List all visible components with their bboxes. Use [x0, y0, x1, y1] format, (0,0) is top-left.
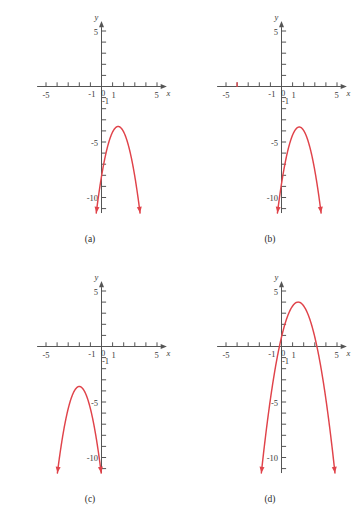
y-tick-label-neg10: -10: [267, 193, 278, 203]
y-tick-label-neg1: -1: [282, 96, 289, 106]
y-axis-label: y: [274, 12, 279, 22]
parabola-curve: [261, 302, 335, 473]
graph-panel-a: -5-10155-1-5-10xy(a): [0, 0, 180, 260]
y-axis-label: y: [94, 272, 99, 282]
axis-tick-labels: -5-10155-1-5-10: [222, 287, 338, 464]
x-axis-label: x: [345, 88, 350, 98]
x-tick-label-neg1: -1: [88, 89, 95, 99]
y-tick-label-5: 5: [274, 287, 278, 297]
x-tick-label-1: 1: [291, 350, 295, 360]
y-tick-label-5: 5: [94, 287, 98, 297]
y-tick-label-neg10: -10: [87, 193, 98, 203]
axes-group: [217, 281, 347, 473]
panel-caption: (c): [0, 494, 180, 504]
x-axis-label: x: [165, 88, 170, 98]
y-axis-arrow-icon: [279, 281, 284, 287]
axis-tick-labels: -5-10155-1-5-10: [42, 287, 158, 464]
parabola-curve: [277, 127, 321, 213]
figure-panel-grid: -5-10155-1-5-10xy(a)-5-10155-1-5-10xy(b)…: [0, 0, 360, 519]
x-tick-label-neg5: -5: [222, 350, 229, 360]
y-tick-label-neg1: -1: [102, 356, 109, 366]
panel-caption: (a): [0, 234, 180, 244]
y-tick-label-neg10: -10: [267, 453, 278, 463]
y-tick-label-neg10: -10: [87, 453, 98, 463]
y-axis-arrow-icon: [99, 21, 104, 27]
x-axis-label: x: [165, 348, 170, 358]
panel-caption: (b): [180, 234, 360, 244]
x-tick-label-1: 1: [111, 350, 115, 360]
x-tick-label-1: 1: [291, 90, 295, 100]
x-tick-label-1: 1: [111, 90, 115, 100]
x-tick-label-5: 5: [154, 90, 158, 100]
x-tick-label-neg5: -5: [42, 90, 49, 100]
graph-panel-c: -5-10155-1-5-10xy(c): [0, 260, 180, 519]
x-tick-label-5: 5: [334, 350, 338, 360]
graph-panel-d: -5-10155-1-5-10xy(d): [180, 260, 360, 519]
axes-group: [37, 21, 167, 213]
x-tick-label-neg1: -1: [268, 89, 275, 99]
axes-group: [37, 281, 167, 473]
x-tick-label-5: 5: [334, 90, 338, 100]
y-axis-label: y: [94, 12, 99, 22]
y-tick-label-neg5: -5: [91, 398, 98, 408]
x-tick-label-neg5: -5: [42, 350, 49, 360]
y-axis-arrow-icon: [99, 281, 104, 287]
y-tick-label-neg1: -1: [282, 356, 289, 366]
y-axis-label: y: [274, 272, 279, 282]
y-axis-arrow-icon: [279, 21, 284, 27]
x-axis-label: x: [345, 348, 350, 358]
y-tick-label-5: 5: [274, 27, 278, 37]
panel-caption: (d): [180, 494, 360, 504]
y-tick-label-neg5: -5: [91, 138, 98, 148]
x-tick-label-neg1: -1: [268, 349, 275, 359]
x-tick-label-neg5: -5: [222, 90, 229, 100]
parabola-curve: [96, 126, 140, 213]
x-tick-label-neg1: -1: [88, 349, 95, 359]
y-tick-label-neg1: -1: [102, 96, 109, 106]
axis-tick-labels: -5-10155-1-5-10: [42, 27, 158, 204]
y-tick-label-neg5: -5: [271, 138, 278, 148]
x-tick-label-5: 5: [154, 350, 158, 360]
graph-panel-b: -5-10155-1-5-10xy(b): [180, 0, 360, 260]
axis-tick-labels: -5-10155-1-5-10: [222, 27, 338, 204]
y-tick-label-neg5: -5: [271, 398, 278, 408]
y-tick-label-5: 5: [94, 27, 98, 37]
